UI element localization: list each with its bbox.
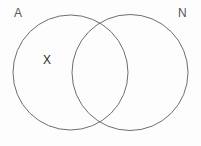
set-label-a: A <box>14 7 22 19</box>
element-marker-x: X <box>43 54 51 66</box>
venn-circles-graphic <box>0 0 201 146</box>
set-label-n: N <box>178 7 187 19</box>
set-circle-n <box>72 15 188 131</box>
venn-diagram-canvas: A N X <box>0 0 201 146</box>
set-circle-a <box>13 15 128 130</box>
